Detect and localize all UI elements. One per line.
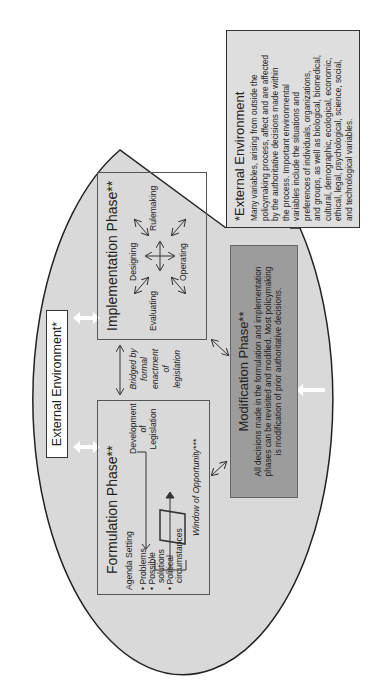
agenda-setting-label: Agenda Setting [124, 531, 134, 590]
formulation-title: Formulation Phase** [104, 446, 120, 574]
modification-title: Modification Phase** [236, 246, 251, 497]
formulation-phase-box: Formulation Phase** Agenda Setting • Pro… [97, 400, 210, 595]
note-body: Many variables, arising from outside the… [249, 37, 354, 221]
modification-description: All decisions made in the formulation an… [253, 246, 283, 497]
modification-phase-box: Modification Phase** All decisions made … [230, 245, 298, 498]
implementation-title: Implementation Phase** [104, 181, 120, 331]
external-environment-label: External Environment* [46, 310, 68, 458]
window-of-opportunity-label: Window of Opportunity*** [191, 439, 201, 536]
bridge-text: Bridged byformalenactmentoflegislation [128, 344, 183, 394]
bullet-circumstances: circumstances [174, 528, 184, 583]
external-environment-note: *External Environment Many variables, ar… [226, 30, 360, 228]
designing-label: Designing [128, 243, 138, 281]
rulemaking-label: Rulemaking [148, 186, 158, 231]
development-of-legislation: DevelopmentofLegislation [128, 404, 158, 454]
evaluating-label: Evaluating [148, 291, 158, 331]
implementation-phase-box: Implementation Phase** Designing Rulemak… [97, 172, 207, 340]
note-title: *External Environment [232, 37, 247, 221]
operating-label: Operating [178, 243, 188, 281]
diagram-stage: External Environment* Formulation Phase*… [0, 0, 385, 690]
